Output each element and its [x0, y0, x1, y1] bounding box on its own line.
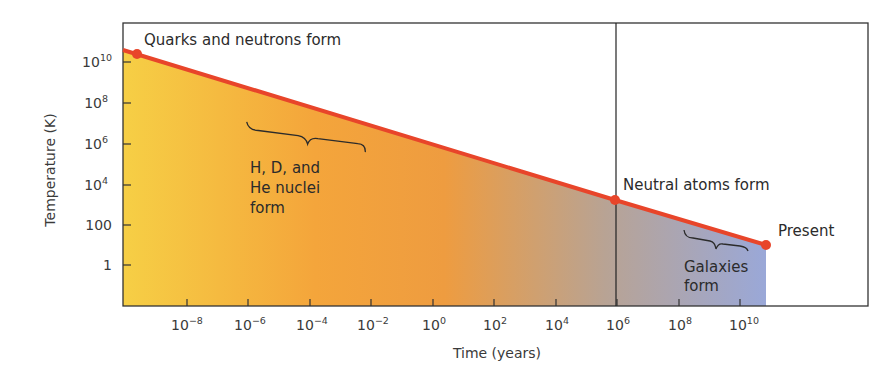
annotation-quarks: Quarks and neutrons form [144, 31, 341, 49]
svg-text:H, D, and: H, D, and [250, 159, 320, 177]
svg-text:He nuclei: He nuclei [250, 179, 320, 197]
svg-text:1010: 1010 [729, 315, 759, 333]
marker-neutral-atoms [610, 195, 620, 205]
svg-text:106: 106 [84, 134, 108, 152]
chart: 1010 108 106 104 100 1 10−8 10−6 10−4 10… [0, 0, 896, 380]
svg-text:104: 104 [84, 175, 108, 193]
svg-text:106: 106 [606, 315, 630, 333]
x-axis-tick-labels: 10−8 10−6 10−4 10−2 100 102 104 106 108 … [171, 315, 759, 333]
svg-text:102: 102 [483, 315, 507, 333]
svg-text:form: form [250, 199, 285, 217]
annotation-neutral-atoms: Neutral atoms form [623, 176, 770, 194]
marker-quarks [132, 49, 142, 59]
svg-text:100: 100 [422, 315, 446, 333]
svg-text:10−8: 10−8 [171, 315, 203, 333]
svg-text:1: 1 [103, 257, 112, 273]
marker-present [761, 240, 771, 250]
svg-text:10−2: 10−2 [357, 315, 389, 333]
svg-text:10−4: 10−4 [296, 315, 328, 333]
y-axis-tick-labels: 1010 108 106 104 100 1 [82, 52, 112, 273]
svg-text:104: 104 [545, 315, 569, 333]
svg-text:Galaxies: Galaxies [684, 258, 748, 276]
svg-text:1010: 1010 [82, 52, 112, 70]
svg-text:form: form [684, 277, 719, 295]
y-axis-title: Temperature (K) [42, 113, 58, 227]
svg-text:10−6: 10−6 [234, 315, 266, 333]
svg-text:100: 100 [85, 217, 112, 233]
x-axis-title: Time (years) [452, 345, 541, 361]
annotation-present: Present [778, 222, 834, 240]
svg-text:108: 108 [668, 315, 692, 333]
svg-text:108: 108 [84, 93, 108, 111]
